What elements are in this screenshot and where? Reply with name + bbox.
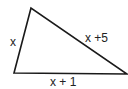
side-label-left: x xyxy=(10,35,16,49)
side-label-hypotenuse: x +5 xyxy=(85,31,108,45)
triangle-diagram: x x +5 x + 1 xyxy=(0,0,128,89)
triangle xyxy=(14,8,127,74)
side-label-base: x + 1 xyxy=(50,75,77,89)
